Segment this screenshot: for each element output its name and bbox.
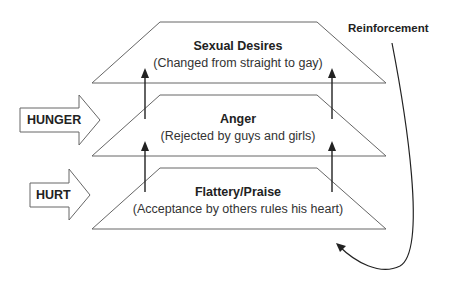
level-subtitle-anger: (Rejected by guys and girls) (161, 129, 316, 143)
level-subtitle-flattery: (Acceptance by others rules his heart) (133, 202, 344, 216)
level-title-sexual-desires: Sexual Desires (194, 39, 283, 53)
level-subtitle-sexual-desires: (Changed from straight to gay) (153, 56, 323, 70)
hunger-label: HUNGER (27, 113, 81, 127)
reinforcement-label: Reinforcement (348, 22, 429, 34)
level-title-flattery: Flattery/Praise (195, 185, 281, 199)
hurt-label: HURT (36, 188, 71, 202)
level-title-anger: Anger (220, 112, 256, 126)
